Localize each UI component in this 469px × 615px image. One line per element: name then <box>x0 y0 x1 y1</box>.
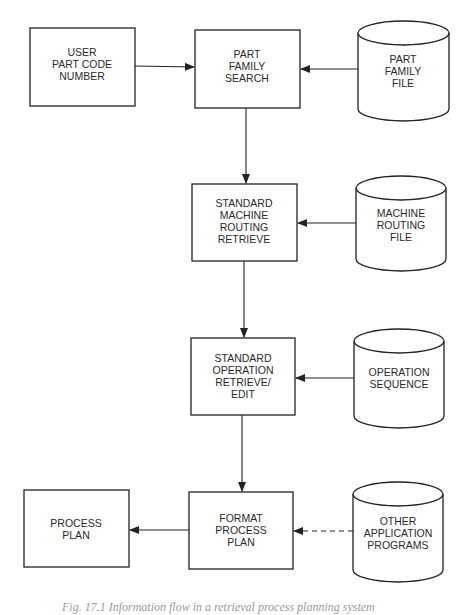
node-format-process-plan: FORMATPROCESSPLAN <box>189 492 293 569</box>
node-part-family-file-database-icon: PARTFAMILYFILE <box>358 21 449 121</box>
svg-text:OPERATIONSEQUENCE: OPERATIONSEQUENCE <box>368 366 429 390</box>
node-standard-machine-routing-retrieve: STANDARDMACHINEROUTINGRETRIEVE <box>192 184 297 261</box>
node-process-plan: PROCESSPLAN <box>24 490 129 567</box>
node-standard-operation-retrieve-edit: STANDARDOPERATIONRETRIEVE/EDIT <box>191 338 295 415</box>
svg-text:STANDARDMACHINEROUTINGRETRIEVE: STANDARDMACHINEROUTINGRETRIEVE <box>216 197 273 245</box>
node-user-part-code-number: USERPART CODENUMBER <box>30 28 135 106</box>
node-machine-routing-file-database-icon: MACHINEROUTINGFILE <box>356 176 446 271</box>
node-part-family-search: PARTFAMILYSEARCH <box>195 30 300 108</box>
node-operation-sequence-database-icon: OPERATIONSEQUENCE <box>354 329 444 428</box>
figure-caption: Fig. 17.1 Information flow in a retrieva… <box>62 600 375 615</box>
node-other-application-programs-database-icon: OTHERAPPLICATIONPROGRAMS <box>353 482 443 582</box>
edge-user-to-search <box>135 66 194 67</box>
